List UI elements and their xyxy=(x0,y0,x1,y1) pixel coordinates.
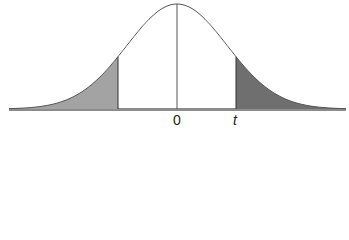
critical-value-label: t xyxy=(233,113,237,127)
center-label: 0 xyxy=(173,113,181,127)
